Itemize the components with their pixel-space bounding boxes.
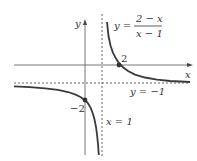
x-axis-arrow-icon bbox=[187, 63, 193, 67]
y-intercept-label: −2 bbox=[70, 103, 85, 114]
y-intercept-point bbox=[83, 98, 88, 103]
y-axis-label: y bbox=[74, 18, 81, 29]
x-intercept-label: 2 bbox=[121, 53, 127, 64]
curve-left-branch bbox=[14, 86, 99, 155]
horizontal-asymptote-label: y = −1 bbox=[129, 86, 165, 97]
rational-function-graph: y x y = 2 − x x − 1 2 −2 y = −1 x = 1 bbox=[0, 0, 197, 161]
function-label-denominator: x − 1 bbox=[136, 28, 163, 39]
vertical-asymptote-label: x = 1 bbox=[106, 116, 133, 127]
y-axis-arrow-icon bbox=[83, 19, 87, 25]
function-label-lhs: y = bbox=[113, 20, 131, 31]
x-axis-label: x bbox=[185, 69, 191, 80]
function-label-numerator: 2 − x bbox=[135, 13, 163, 24]
